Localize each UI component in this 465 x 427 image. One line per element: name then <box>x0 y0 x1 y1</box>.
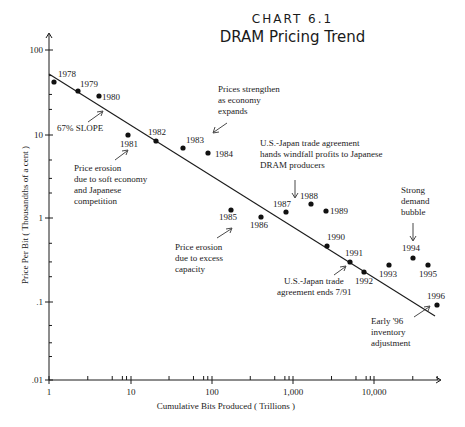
annotation-trade-ends: U.S.-Japan trade agreement ends 7/91 <box>277 276 351 297</box>
data-point <box>283 209 288 214</box>
data-point <box>205 150 210 155</box>
arrow-strengthen-icon <box>214 123 227 132</box>
y-tick-label: .01 <box>32 375 43 385</box>
data-point <box>180 145 185 150</box>
data-point <box>258 214 263 219</box>
arrow-inventory-icon <box>414 307 429 317</box>
data-point <box>410 255 415 260</box>
data-point <box>434 302 439 307</box>
annotation-strengthen: Prices strengthen as economy expands <box>218 84 282 116</box>
arrow-trade-ends-icon <box>334 267 345 275</box>
point-label: 1993 <box>379 269 398 279</box>
annotation-demand-bubble: Strong demand bubble <box>401 185 432 217</box>
point-label: 1989 <box>330 206 349 216</box>
data-point <box>347 259 352 264</box>
data-point <box>425 262 430 267</box>
point-label: 1980 <box>102 92 121 102</box>
x-ticks: 1101001,00010,000 <box>47 376 437 397</box>
arrowhead-strengthen-icon <box>213 127 219 133</box>
point-label: 1983 <box>186 135 205 145</box>
data-point <box>51 79 56 84</box>
x-tick-label: 10 <box>127 387 137 397</box>
arrow-slope-icon <box>88 112 102 122</box>
point-label: 1992 <box>355 276 373 286</box>
annotation-inventory: Early '96 inventory adjustment <box>371 316 411 348</box>
y-axis-label: Price Per Bit ( Thousandths of a cent ) <box>20 146 30 284</box>
point-label: 1986 <box>250 220 269 230</box>
point-label: 1995 <box>419 269 438 279</box>
point-label: 1982 <box>148 127 166 137</box>
x-axis-label: Cumulative Bits Produced ( Trillions ) <box>157 401 295 411</box>
point-label: 1994 <box>402 243 421 253</box>
annotation-excess-capacity: Price erosion due to excess capacity <box>175 242 225 274</box>
point-label: 1981 <box>120 139 138 149</box>
data-point <box>323 208 328 213</box>
point-label: 1979 <box>80 79 99 89</box>
y-tick-label: 10 <box>34 130 44 140</box>
dram-pricing-chart: 100101.1.01 1101001,00010,000 Price Per … <box>0 0 465 427</box>
y-tick-label: 1 <box>39 213 44 223</box>
x-tick-label: 100 <box>205 387 219 397</box>
annotation-soft-economy: Price erosion due to soft economy and Ja… <box>74 163 150 206</box>
point-label: 1990 <box>327 232 346 242</box>
point-label: 1985 <box>219 212 238 222</box>
data-point <box>75 88 80 93</box>
y-tick-label: .1 <box>36 297 43 307</box>
data-point <box>153 138 158 143</box>
point-label: 1991 <box>345 248 363 258</box>
point-label: 1988 <box>300 191 319 201</box>
data-point <box>386 262 391 267</box>
arrow-excess-capacity-icon <box>217 229 231 238</box>
point-label: 1978 <box>58 69 77 79</box>
data-point <box>308 201 313 206</box>
data-point <box>361 269 366 274</box>
annotations: 67% SLOPE Price erosion due to soft econ… <box>57 84 432 348</box>
data-point <box>96 93 101 98</box>
x-tick-label: 1,000 <box>283 387 304 397</box>
arrow-soft-economy-icon <box>115 151 127 160</box>
x-tick-label: 10,000 <box>362 387 387 397</box>
point-label: 1996 <box>427 291 446 301</box>
point-label: 1987 <box>273 199 292 209</box>
annotation-trade-windfall: U.S.-Japan trade agreement hands windfal… <box>260 138 385 170</box>
x-tick-label: 1 <box>47 387 52 397</box>
data-point <box>324 243 329 248</box>
annotation-slope: 67% SLOPE <box>57 123 104 133</box>
data-point <box>125 132 130 137</box>
y-tick-label: 100 <box>30 45 44 55</box>
point-label: 1984 <box>215 149 234 159</box>
